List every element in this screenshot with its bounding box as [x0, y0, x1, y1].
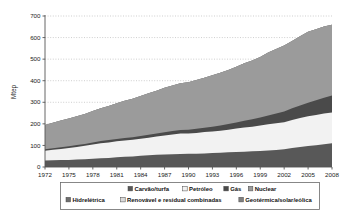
y-tick-label: 0 [37, 163, 41, 170]
x-tick-label: 2005 [301, 171, 315, 178]
y-tick-label: 600 [30, 34, 41, 41]
x-tick-label: 1993 [206, 171, 220, 178]
y-tick-label: 700 [30, 12, 41, 19]
y-axis-label: Mtep [10, 84, 18, 99]
x-tick-label: 2008 [325, 171, 339, 178]
legend-swatch [66, 197, 71, 202]
y-tick-label: 100 [30, 142, 41, 149]
x-tick-label: 1987 [158, 171, 172, 178]
legend-label: Petróleo [189, 186, 213, 192]
legend-swatch [224, 186, 229, 191]
y-tick-label: 400 [30, 77, 41, 84]
x-tick-label: 1999 [253, 171, 267, 178]
legend-label: Nuclear [255, 186, 277, 192]
legend-label: Gás [230, 186, 242, 192]
legend-swatch [121, 197, 126, 202]
legend-swatch [128, 186, 133, 191]
legend-swatch [239, 197, 244, 202]
legend-label: Geotérmica/solar/eólica [245, 197, 312, 203]
y-tick-label: 500 [30, 55, 41, 62]
legend-swatch [183, 186, 188, 191]
legend-label: Carvão/turfa [134, 186, 169, 192]
x-tick-label: 1981 [110, 171, 124, 178]
y-tick-label: 200 [30, 120, 41, 127]
x-tick-label: 1990 [182, 171, 196, 178]
legend-label: Renovável e residual combinadas [127, 197, 222, 203]
x-tick-label: 1975 [62, 171, 76, 178]
stacked-area-chart: Mtep 0100200300400500600700 197219751978… [0, 0, 346, 220]
y-tick-label: 300 [30, 98, 41, 105]
x-tick-label: 1972 [38, 171, 52, 178]
x-tick-label: 1984 [134, 171, 148, 178]
legend-swatch [248, 186, 253, 191]
x-tick-label: 1996 [229, 171, 243, 178]
chart-figure: Mtep 0100200300400500600700 197219751978… [0, 0, 346, 220]
x-tick-label: 1978 [86, 171, 100, 178]
x-tick-label: 2002 [277, 171, 291, 178]
legend-label: Hidrelétrica [72, 197, 105, 203]
